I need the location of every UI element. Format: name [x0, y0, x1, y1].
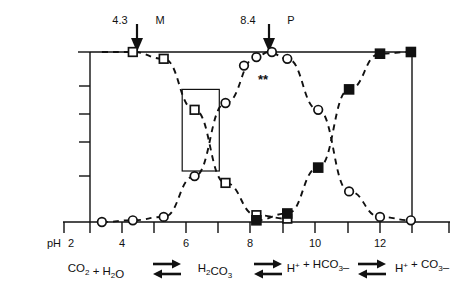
arrow-reverse-head — [254, 270, 263, 279]
marker-open-circle — [252, 53, 261, 62]
x-axis-label-6: 6 — [183, 237, 189, 249]
x-axis-label-8: 8 — [247, 237, 253, 249]
curves-layer — [98, 47, 416, 226]
equation-term-2: H+ + HCO3– — [287, 258, 350, 274]
arrow-reverse-head — [153, 270, 162, 279]
marker-filled-square — [406, 47, 415, 56]
annotation-letter-M: M — [155, 14, 164, 26]
equilibrium-arrow-0 — [153, 260, 181, 279]
arrow-forward-head — [377, 260, 386, 269]
marker-open-square — [159, 55, 168, 64]
marker-open-circle — [407, 216, 416, 225]
equilibrium-arrow-1 — [254, 260, 282, 279]
marker-filled-square — [375, 49, 384, 58]
speciation-figure: 4.3 M 8.4 P — [0, 0, 461, 292]
arrow-forward-head — [172, 260, 181, 269]
marker-filled-square — [283, 209, 292, 218]
x-axis-label-2: 2 — [68, 237, 74, 249]
marker-open-circle — [314, 106, 323, 115]
curve-series-1 — [102, 52, 411, 222]
marker-filled-square — [345, 85, 354, 94]
marker-open-circle — [221, 99, 230, 108]
plot-frame — [78, 52, 412, 222]
x-axis: pH 2 4 6 8 10 12 — [47, 222, 450, 249]
marker-open-circle — [190, 172, 199, 181]
marker-open-circle — [98, 218, 107, 227]
marker-filled-square — [252, 216, 261, 225]
equation-term-0: CO2 + H2O — [68, 262, 125, 280]
annotation-value-M: 4.3 — [112, 14, 127, 26]
asterisk-annotation: ** — [258, 72, 269, 87]
marker-open-circle — [268, 48, 277, 57]
y-axis-ticks — [78, 52, 90, 176]
equation-term-3: H+ + CO3– — [395, 258, 450, 274]
marker-open-circle — [240, 61, 249, 70]
marker-open-circle — [345, 187, 354, 196]
x-axis-label-12: 12 — [374, 237, 386, 249]
marker-open-circle — [376, 213, 385, 222]
reaction-equation: CO2 + H2OH2CO3H+ + HCO3–H+ + CO3– — [68, 258, 450, 280]
arrow-forward-head — [273, 260, 282, 269]
x-axis-label-4: 4 — [119, 237, 125, 249]
equilibrium-arrow-2 — [358, 260, 386, 279]
annotation-value-P: 8.4 — [240, 14, 255, 26]
marker-open-circle — [129, 216, 138, 225]
marker-open-circle — [283, 55, 292, 64]
marker-open-square — [129, 48, 138, 57]
speciation-svg: 4.3 M 8.4 P — [0, 0, 461, 292]
marker-open-square — [190, 106, 199, 115]
annotation-letter-P: P — [287, 14, 294, 26]
marker-filled-square — [314, 163, 323, 172]
x-axis-label-10: 10 — [309, 237, 321, 249]
x-axis-labels: pH 2 4 6 8 10 12 — [47, 237, 386, 249]
x-axis-ph-prefix: pH — [47, 237, 61, 249]
marker-open-circle — [159, 213, 168, 222]
marker-open-square — [221, 179, 230, 188]
annotation-marker-M: 4.3 M — [112, 14, 164, 52]
equation-term-1: H2CO3 — [198, 262, 233, 280]
curve-series-2 — [256, 52, 411, 220]
annotation-marker-P: 8.4 P — [240, 14, 294, 52]
arrow-reverse-head — [358, 270, 367, 279]
